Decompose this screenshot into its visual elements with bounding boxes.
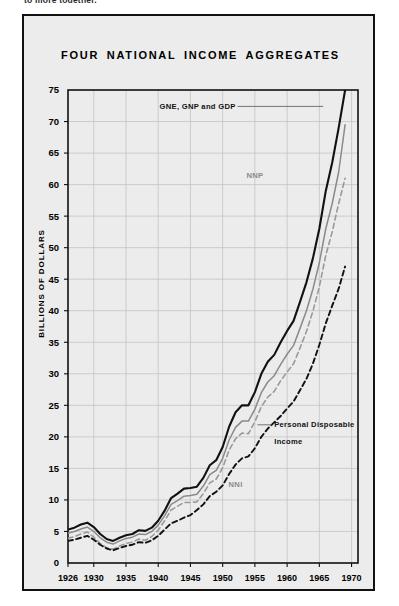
x-tick-label: 1926 bbox=[58, 573, 78, 583]
y-tick-label: 50 bbox=[48, 242, 59, 253]
y-tick-label: 0 bbox=[54, 557, 59, 568]
series-label: NNP bbox=[246, 171, 263, 180]
y-tick-label: 55 bbox=[48, 211, 59, 222]
plot-area: 051015202530354045505560657075 192619301… bbox=[24, 16, 377, 593]
x-tick-label: 1940 bbox=[148, 573, 168, 583]
series-line bbox=[68, 125, 345, 544]
chart-svg: 051015202530354045505560657075 192619301… bbox=[24, 16, 377, 593]
series-line bbox=[68, 90, 345, 541]
y-tick-label: 25 bbox=[48, 400, 59, 411]
y-tick-label: 30 bbox=[48, 368, 59, 379]
figure-panel: FOUR NATIONAL INCOME AGGREGATES BILLIONS… bbox=[22, 14, 375, 591]
y-tick-label: 70 bbox=[48, 116, 59, 127]
series-line bbox=[68, 267, 345, 551]
y-tick-label: 5 bbox=[54, 526, 60, 537]
x-axis-ticks: 1926193019351940194519501955196019651970 bbox=[58, 563, 362, 583]
x-tick-label: 1950 bbox=[213, 573, 233, 583]
series-label: NNI bbox=[229, 480, 243, 489]
x-tick-label: 1960 bbox=[277, 573, 297, 583]
series-label: Personal Disposable bbox=[274, 420, 354, 429]
series-line bbox=[68, 178, 345, 549]
plot-frame bbox=[68, 90, 358, 563]
y-tick-label: 10 bbox=[48, 494, 59, 505]
y-tick-label: 65 bbox=[48, 147, 59, 158]
y-axis-ticks: 051015202530354045505560657075 bbox=[48, 84, 68, 568]
x-tick-label: 1965 bbox=[309, 573, 329, 583]
x-tick-label: 1930 bbox=[84, 573, 104, 583]
y-tick-label: 40 bbox=[48, 305, 59, 316]
page-cut-off-text: to more together. bbox=[24, 0, 97, 3]
y-tick-label: 60 bbox=[48, 179, 59, 190]
series-label: Income bbox=[274, 437, 302, 446]
y-tick-label: 75 bbox=[48, 84, 59, 95]
series-labels: GNE, GNP and GDPNNPNNIPersonal Disposabl… bbox=[160, 102, 355, 489]
y-tick-label: 15 bbox=[48, 463, 59, 474]
x-tick-label: 1935 bbox=[116, 573, 136, 583]
gridlines bbox=[68, 90, 358, 563]
x-tick-label: 1945 bbox=[180, 573, 200, 583]
y-tick-label: 20 bbox=[48, 431, 59, 442]
x-tick-label: 1970 bbox=[342, 573, 362, 583]
data-series bbox=[68, 90, 345, 550]
y-tick-label: 45 bbox=[48, 274, 59, 285]
series-label: GNE, GNP and GDP bbox=[160, 102, 236, 111]
y-tick-label: 35 bbox=[48, 337, 59, 348]
x-tick-label: 1955 bbox=[245, 573, 265, 583]
